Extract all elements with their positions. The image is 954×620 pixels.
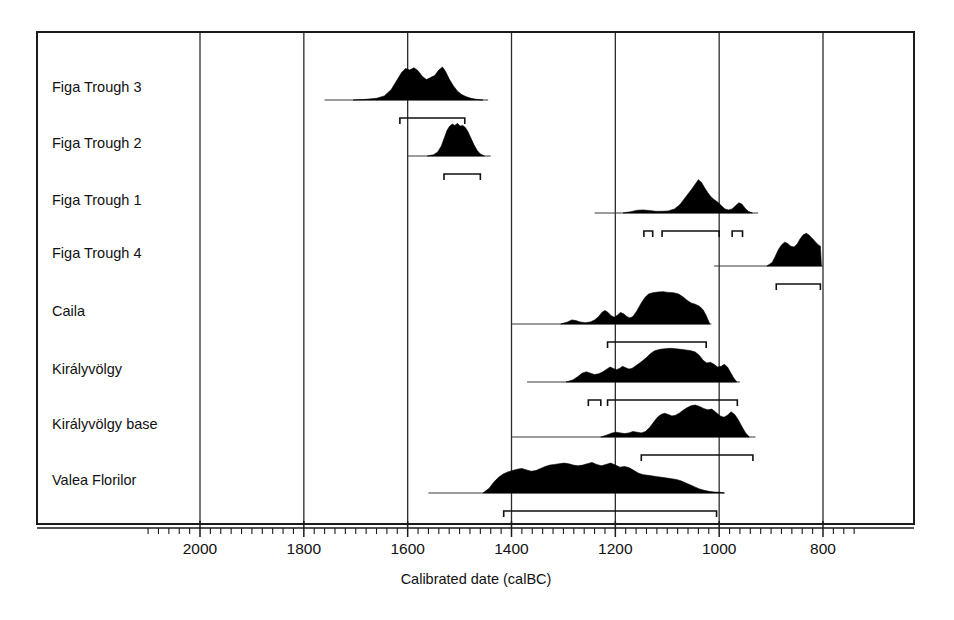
x-tick-label: 1600 xyxy=(390,540,425,557)
x-tick-label: 1400 xyxy=(494,540,529,557)
x-tick-label: 1800 xyxy=(287,540,322,557)
row-label-text: Királyvölgy base xyxy=(52,416,158,432)
radiocarbon-calibration-chart: Figa Trough 3Figa Trough 2Figa Trough 1F… xyxy=(0,0,954,620)
x-tick-label: 1000 xyxy=(702,540,737,557)
row-label-text: Figa Trough 1 xyxy=(52,192,141,208)
row-label-text: Figa Trough 2 xyxy=(52,135,141,151)
x-axis-title: Calibrated date (calBC) xyxy=(401,571,552,587)
row-label-text: Figa Trough 4 xyxy=(52,245,141,261)
row-label-text: Figa Trough 3 xyxy=(52,79,141,95)
row-label-text: Királyvölgy xyxy=(52,361,123,377)
plot-canvas: Figa Trough 3Figa Trough 2Figa Trough 1F… xyxy=(0,0,954,620)
x-tick-label: 1200 xyxy=(598,540,633,557)
row-label-text: Caila xyxy=(52,303,86,319)
x-tick-label: 800 xyxy=(810,540,836,557)
chart-background xyxy=(0,0,954,620)
x-tick-label: 2000 xyxy=(183,540,218,557)
row-label-text: Valea Florilor xyxy=(52,472,137,488)
